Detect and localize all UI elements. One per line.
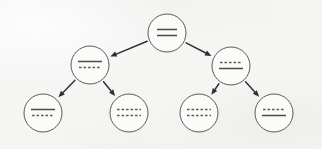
leaf-node-4-circle[interactable] bbox=[255, 94, 293, 132]
leaf-node-2[interactable] bbox=[110, 94, 148, 132]
root-node-circle[interactable] bbox=[148, 14, 186, 52]
tree-diagram bbox=[0, 0, 322, 149]
arrow-root-to-right-branch bbox=[186, 43, 211, 56]
arrow-left-branch-to-leaf-1 bbox=[58, 80, 75, 97]
left-branch-node-circle[interactable] bbox=[71, 46, 109, 84]
leaf-node-3-circle[interactable] bbox=[180, 94, 218, 132]
leaf-node-1-circle[interactable] bbox=[24, 94, 62, 132]
right-branch-node[interactable] bbox=[212, 47, 250, 85]
diagram-canvas bbox=[0, 0, 322, 149]
leaf-node-1[interactable] bbox=[24, 94, 62, 132]
leaf-node-3[interactable] bbox=[180, 94, 218, 132]
nodes-layer bbox=[24, 14, 293, 132]
right-branch-node-circle[interactable] bbox=[212, 47, 250, 85]
arrow-right-branch-to-leaf-4 bbox=[246, 82, 260, 97]
arrow-root-to-left-branch bbox=[110, 41, 147, 56]
arrow-left-branch-to-leaf-2 bbox=[104, 82, 116, 96]
root-node[interactable] bbox=[148, 14, 186, 52]
arrow-right-branch-to-leaf-3 bbox=[211, 84, 219, 95]
left-branch-node[interactable] bbox=[71, 46, 109, 84]
leaf-node-2-circle[interactable] bbox=[110, 94, 148, 132]
leaf-node-4[interactable] bbox=[255, 94, 293, 132]
